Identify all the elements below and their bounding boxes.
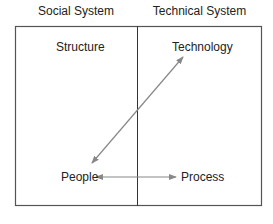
node-technology: Technology — [172, 40, 233, 54]
node-process: Process — [181, 170, 224, 184]
node-structure: Structure — [56, 40, 105, 54]
diagram-canvas — [0, 0, 273, 224]
node-people: People — [61, 170, 98, 184]
